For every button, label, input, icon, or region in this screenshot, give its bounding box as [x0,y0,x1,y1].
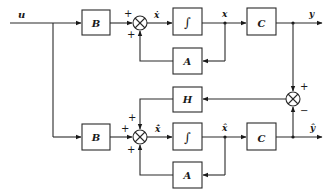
observer-block-diagram: u B + + ẋ ∫ x A C y [0,0,327,195]
block-C-observer-label: C [258,133,266,144]
block-C-plant-label: C [258,18,266,29]
output-label-yhat: ŷ [309,123,316,133]
sum-observer-sign-bottom: + [127,144,135,155]
block-A-plant-label: A [183,56,192,67]
block-C-observer: C [247,123,276,150]
output-label-y: y [308,9,315,19]
integrator-plant-symbol: ∫ [184,15,191,30]
block-B-plant: B [82,10,110,35]
block-H: H [173,87,202,112]
block-A-observer-label: A [183,170,192,181]
input-label-u: u [18,9,25,20]
block-H-label: H [182,94,193,105]
summing-junction-plant [133,16,147,30]
label-x: x [221,9,228,19]
sum-plant-sign-bottom: + [127,29,135,40]
block-integrator-plant: ∫ [173,8,202,35]
sum-observer-sign-top: + [128,112,136,123]
error-sum-sign-bottom: − [300,105,308,116]
block-integrator-observer: ∫ [173,123,202,150]
block-C-plant: C [247,8,276,35]
block-B-plant-label: B [91,18,100,29]
block-B-observer-label: B [91,132,100,143]
sum-observer-sign-left: + [121,123,129,134]
block-A-observer: A [173,162,202,188]
sum-plant-sign-left: + [124,8,132,19]
label-x-dot: ẋ [153,10,160,20]
error-sum-sign-top: + [300,81,308,92]
block-B-observer: B [82,124,110,150]
block-A-plant: A [173,48,202,74]
integrator-observer-symbol: ∫ [184,130,191,145]
wire-A-to-sum-observer [140,145,173,175]
summing-junction-observer [133,130,147,144]
label-xhat: x̂ [221,123,228,133]
summing-junction-error [286,92,300,106]
label-xhat-dot: x̂̇ [154,124,161,134]
wire-A-to-sum-plant [140,31,173,61]
